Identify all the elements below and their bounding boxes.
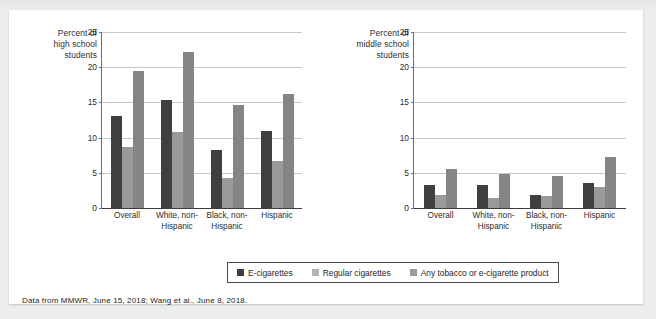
legend-swatch-icon: [312, 269, 319, 276]
bar: [530, 195, 541, 208]
bar: [233, 105, 244, 208]
figure-card: Percent of high school students 05101520…: [9, 10, 643, 304]
y-axis-title-line-3: students: [377, 50, 409, 60]
chart-middle-school: Percent of middle school students 051015…: [319, 22, 635, 254]
legend-swatch-icon: [410, 269, 417, 276]
y-axis-title-line-3: students: [65, 50, 97, 60]
bar: [552, 176, 563, 208]
x-axis-category-label: Overall: [414, 211, 467, 232]
bar-group: [520, 32, 573, 208]
bar: [222, 178, 233, 208]
x-axis-category-line-1: White, non-: [156, 211, 198, 220]
bar: [111, 116, 122, 208]
y-axis-tick-label: 0: [404, 203, 409, 213]
x-axis-category-label: Hispanic: [252, 211, 302, 232]
x-axis-category-line-1: Hispanic: [584, 211, 615, 220]
bar: [272, 161, 283, 208]
y-axis-title-line-2: middle school: [356, 39, 409, 49]
bar: [211, 150, 222, 208]
bar-group: [102, 32, 152, 208]
x-axis-category-label: Black, non-Hispanic: [202, 211, 252, 232]
y-axis-title-middle-school: Percent of middle school students: [331, 28, 409, 62]
x-axis-category-label: White, non-Hispanic: [467, 211, 520, 232]
x-axis-category-line-1: Black, non-: [207, 211, 248, 220]
bar-group: [573, 32, 626, 208]
y-axis-title-high-school: Percent of high school students: [19, 28, 97, 62]
y-axis-tick-label: 15: [88, 97, 97, 107]
bar-groups-high-school: [102, 32, 302, 208]
bar-group: [467, 32, 520, 208]
x-axis-category-line-1: Overall: [428, 211, 454, 220]
bar-groups-middle-school: [414, 32, 626, 208]
bar: [583, 183, 594, 208]
x-axis-category-line-2: Hispanic: [467, 222, 520, 233]
bar: [283, 94, 294, 208]
y-axis-tick-label: 10: [400, 133, 409, 143]
x-axis-category-line-2: Hispanic: [202, 222, 252, 233]
y-axis-tick-label: 5: [92, 168, 97, 178]
x-axis-category-line-1: Hispanic: [261, 211, 292, 220]
bar: [424, 185, 435, 208]
y-axis-title-line-2: high school: [54, 39, 97, 49]
bar: [605, 157, 616, 208]
y-axis-tick-label: 15: [400, 97, 409, 107]
source-caption: Data from MMWR, June 15, 2018; Wang et a…: [22, 296, 247, 305]
x-axis-category-label: Overall: [102, 211, 152, 232]
bar: [133, 71, 144, 208]
legend-item-label: Any tobacco or e-cigarette product: [421, 268, 549, 278]
x-axis-category-line-1: Black, non-: [526, 211, 567, 220]
x-axis-category-label: Hispanic: [573, 211, 626, 232]
bar-group: [414, 32, 467, 208]
chart-legend: E-cigarettesRegular cigarettesAny tobacc…: [227, 262, 559, 283]
chart-high-school: Percent of high school students 05101520…: [17, 22, 309, 254]
y-axis-tick-mark: [411, 208, 414, 209]
y-axis-tick-label: 0: [92, 203, 97, 213]
bar: [488, 198, 499, 208]
x-axis-labels-high-school: OverallWhite, non-HispanicBlack, non-His…: [102, 211, 302, 232]
y-axis-tick-label: 10: [88, 133, 97, 143]
x-axis-category-line-1: White, non-: [473, 211, 515, 220]
bar: [261, 131, 272, 208]
legend-item: Regular cigarettes: [312, 268, 391, 278]
y-axis-tick-label: 5: [404, 168, 409, 178]
page-background: Percent of high school students 05101520…: [0, 0, 656, 319]
x-axis-labels-middle-school: OverallWhite, non-HispanicBlack, non-His…: [414, 211, 626, 232]
y-axis-tick-mark: [99, 208, 102, 209]
bar: [161, 100, 172, 208]
legend-item-label: Regular cigarettes: [323, 268, 391, 278]
bar: [477, 185, 488, 208]
legend-item: E-cigarettes: [237, 268, 293, 278]
bar: [183, 52, 194, 208]
bar: [499, 174, 510, 208]
legend-swatch-icon: [237, 269, 244, 276]
y-axis-tick-label: 20: [88, 62, 97, 72]
plot-area-middle-school: 0510152025 OverallWhite, non-HispanicBla…: [413, 32, 626, 209]
x-axis-category-label: Black, non-Hispanic: [520, 211, 573, 232]
y-axis-tick-label: 25: [400, 27, 409, 37]
x-axis-category-label: White, non-Hispanic: [152, 211, 202, 232]
x-axis-category-line-1: Overall: [114, 211, 140, 220]
bar-group: [152, 32, 202, 208]
bar: [594, 187, 605, 208]
x-axis-category-line-2: Hispanic: [520, 222, 573, 233]
bar: [435, 195, 446, 208]
bar: [446, 169, 457, 208]
bar: [172, 132, 183, 208]
y-axis-tick-label: 20: [400, 62, 409, 72]
legend-item-label: E-cigarettes: [248, 268, 293, 278]
plot-area-high-school: 0510152025 OverallWhite, non-HispanicBla…: [101, 32, 302, 209]
legend-item: Any tobacco or e-cigarette product: [410, 268, 549, 278]
bar: [541, 196, 552, 208]
bar-group: [252, 32, 302, 208]
bar: [122, 147, 133, 208]
bar-group: [202, 32, 252, 208]
x-axis-category-line-2: Hispanic: [152, 222, 202, 233]
y-axis-tick-label: 25: [88, 27, 97, 37]
